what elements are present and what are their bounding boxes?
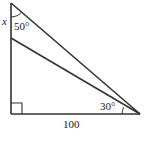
base-length-label: 100 — [63, 118, 80, 130]
inner-line — [11, 38, 140, 114]
right-angle-arc — [122, 107, 124, 114]
top-angle-arc — [11, 12, 22, 17]
outer-hypotenuse — [11, 3, 140, 114]
top-angle-label: 50° — [14, 20, 29, 32]
thirty-angle-label: 30° — [100, 100, 115, 112]
triangle-diagram: x 50° 30° 100 — [0, 0, 145, 145]
x-label: x — [1, 15, 7, 27]
right-angle-marker — [11, 103, 22, 114]
